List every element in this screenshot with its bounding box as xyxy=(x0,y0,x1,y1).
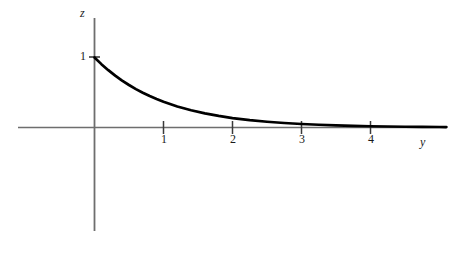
plot-svg xyxy=(0,0,457,256)
x-tick-label-3: 3 xyxy=(295,133,309,145)
y-tick-label-1: 1 xyxy=(80,50,86,62)
x-tick-label-2: 2 xyxy=(226,133,240,145)
x-tick-label-4: 4 xyxy=(364,133,378,145)
x-tick-label-1: 1 xyxy=(157,133,171,145)
exponential-curve xyxy=(95,58,447,128)
horizontal-axis-label: y xyxy=(420,136,425,148)
vertical-axis-label: z xyxy=(80,7,85,19)
figure-canvas: z y 1 1 2 3 4 xyxy=(0,0,457,256)
